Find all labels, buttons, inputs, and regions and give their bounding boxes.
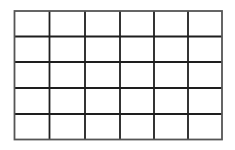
- background: [0, 0, 235, 150]
- grid-diagram: [0, 0, 235, 150]
